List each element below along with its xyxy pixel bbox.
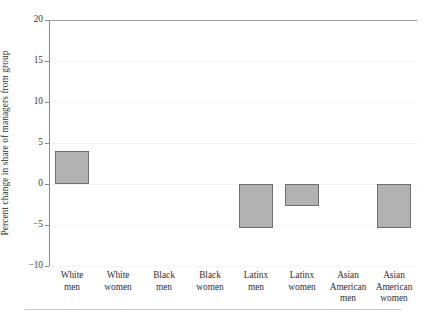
y-axis-tick [45,143,49,144]
x-axis-label-line: Asian [365,270,423,282]
y-axis-tick [45,266,49,267]
y-axis-tick [45,61,49,62]
bar-white-men [55,151,89,184]
bar-asian-american-women [377,184,411,228]
y-axis-tick [45,225,49,226]
bar-latinx-men [239,184,273,228]
gridline [49,184,417,185]
clipped-caption-ghost [130,0,320,4]
footer-rule [25,309,401,310]
zero-baseline [49,20,417,21]
x-axis-label-line: American [365,282,423,294]
bar-latinx-women [285,184,319,206]
y-axis-tick-label: 5 [0,137,43,147]
gridline [49,143,417,144]
y-axis-tick [45,102,49,103]
x-axis-label-asian-american-women: AsianAmericanwomen [365,270,423,305]
y-axis-tick-label: 20 [0,14,43,24]
y-axis-tick [45,20,49,21]
gridline [49,225,417,226]
gridline [49,102,417,103]
x-axis-category-labels: WhitemenWhitewomenBlackmenBlackwomenLati… [49,270,417,314]
y-axis-tick-label: −5 [0,219,43,229]
y-axis-tick-label: 10 [0,96,43,106]
gridline [49,266,417,267]
plot-area [49,20,417,266]
y-axis-tick-label: 0 [0,178,43,188]
x-axis-label-line: women [365,293,423,305]
bar-chart-figure: Percent change in share of managers from… [0,0,431,319]
y-axis-tick-label: 15 [0,55,43,65]
y-axis-tick-label: −10 [0,260,43,270]
y-axis-spine [49,20,50,266]
y-axis-tick [45,184,49,185]
gridline [49,61,417,62]
